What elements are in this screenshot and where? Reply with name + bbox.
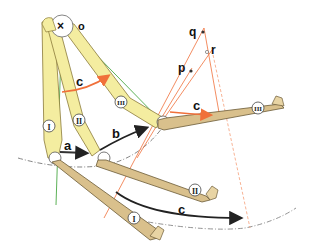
label-b: b [112, 126, 120, 141]
bone-III-distal [158, 104, 284, 130]
svg-text:III: III [117, 99, 125, 107]
label-q: q [189, 25, 196, 39]
label-c-bottom: c [178, 202, 185, 217]
arrow-b [100, 128, 146, 150]
badge-II-top: II [73, 114, 85, 126]
badge-III-right: III [252, 102, 264, 114]
point-q [201, 30, 204, 33]
diagram-canvas: × o I II III III II I c c a b [0, 0, 312, 252]
badge-III-top: III [115, 96, 127, 108]
badge-II-bottom: II [189, 184, 201, 196]
badge-I-bottom: I [128, 212, 140, 224]
svg-text:III: III [254, 105, 262, 113]
label-r: r [211, 43, 216, 57]
point-p [189, 69, 192, 72]
svg-text:I: I [132, 215, 135, 224]
label-p: p [178, 61, 185, 75]
label-c-top: c [76, 74, 83, 89]
svg-text:II: II [192, 187, 198, 196]
svg-text:I: I [47, 123, 50, 132]
label-a: a [64, 138, 72, 153]
bone-III-tip [272, 96, 284, 106]
label-o: o [78, 20, 85, 32]
badge-I-top: I [43, 120, 55, 132]
label-c-right: c [193, 98, 200, 113]
pivot-x-mark: × [57, 19, 64, 33]
svg-text:II: II [76, 117, 82, 126]
bone-I-distal [52, 160, 158, 240]
point-r [205, 50, 208, 53]
